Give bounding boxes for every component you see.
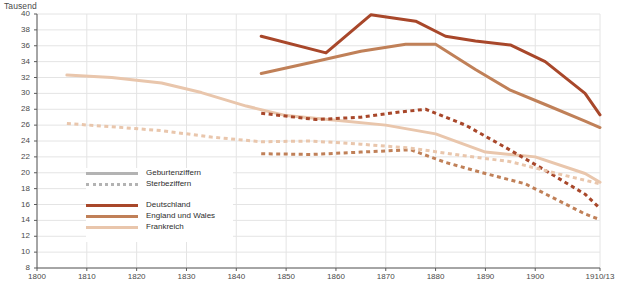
x-axis-tick-label: 1860 (312, 272, 360, 281)
y-axis-tick-label: 12 (0, 231, 30, 240)
x-axis-tick-label: 1910/13 (576, 272, 619, 281)
y-axis-tick-label: 10 (0, 247, 30, 256)
legend-label: Frankreich (146, 222, 184, 231)
legend-row: Frankreich (86, 222, 233, 233)
legend-swatch-england-und-wales (86, 215, 138, 218)
y-axis-tick-label: 22 (0, 152, 30, 161)
y-axis-tick-label: 32 (0, 73, 30, 82)
legend-label: Deutschland (146, 200, 190, 209)
x-axis-tick-label: 1900 (511, 272, 559, 281)
x-axis-tick-label: 1840 (212, 272, 260, 281)
x-axis-tick-label: 1820 (113, 272, 161, 281)
x-axis-tick-label: 1850 (262, 272, 310, 281)
y-axis-tick-label: 14 (0, 215, 30, 224)
y-axis-tick-label: 38 (0, 25, 30, 34)
series-line-frankreich-geburtenziffern (67, 75, 600, 182)
legend-country-entries: DeutschlandEngland und WalesFrankreich (86, 200, 233, 233)
series-line-england-und-wales-geburtenziffern (261, 44, 600, 127)
y-axis-tick-label: 40 (0, 9, 30, 18)
y-axis-tick-label: 18 (0, 184, 30, 193)
legend-swatch-dashed (86, 183, 138, 186)
y-axis-tick-label: 24 (0, 136, 30, 145)
y-axis-tick-label: 26 (0, 120, 30, 129)
x-axis-tick-label: 1890 (461, 272, 509, 281)
legend-row: Geburtenziffern (86, 168, 233, 179)
legend-style-entries: GeburtenziffernSterbeziffern (86, 168, 233, 190)
legend-label: England und Wales (146, 211, 215, 220)
legend-swatch-deutschland (86, 204, 138, 207)
y-axis-tick-label: 30 (0, 88, 30, 97)
x-axis-tick-label: 1870 (362, 272, 410, 281)
legend-label: Sterbeziffern (146, 179, 191, 188)
x-axis-tick-label: 1830 (162, 272, 210, 281)
y-axis-tick-label: 36 (0, 41, 30, 50)
legend-swatch-frankreich (86, 226, 138, 229)
y-axis-tick-label: 16 (0, 200, 30, 209)
y-axis-tick-label: 20 (0, 168, 30, 177)
y-axis-tick-label: 34 (0, 57, 30, 66)
series-line-deutschland-sterbeziffern (261, 109, 600, 208)
chart-legend: GeburtenziffernSterbeziffern Deutschland… (86, 168, 233, 242)
y-axis-tick-label: 28 (0, 104, 30, 113)
legend-row: England und Wales (86, 211, 233, 222)
x-axis-tick-label: 1810 (63, 272, 111, 281)
y-axis-tick-label: 8 (0, 263, 30, 272)
legend-label: Geburtenziffern (146, 168, 201, 177)
legend-swatch-solid (86, 172, 138, 175)
x-axis-tick-label: 1800 (13, 272, 61, 281)
legend-row: Sterbeziffern (86, 179, 233, 190)
x-axis-tick-label: 1880 (412, 272, 460, 281)
legend-row: Deutschland (86, 200, 233, 211)
